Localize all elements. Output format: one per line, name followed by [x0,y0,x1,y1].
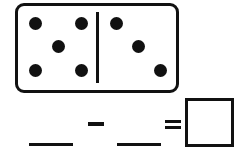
equals-sign-top [165,120,181,123]
pip-left-5 [75,64,88,77]
operand-2-blank[interactable] [117,143,161,146]
pip-left-4 [29,64,42,77]
domino-divider [96,12,99,83]
pip-left-3 [52,40,65,53]
answer-box[interactable] [185,98,234,147]
pip-left-1 [29,17,42,30]
pip-right-3 [154,64,167,77]
pip-left-2 [75,17,88,30]
equals-sign-bottom [165,126,181,129]
pip-right-2 [132,40,145,53]
minus-sign [88,122,104,126]
operand-1-blank[interactable] [29,143,73,146]
pip-right-1 [110,17,123,30]
